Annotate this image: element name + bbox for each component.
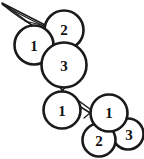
drawing-canvas: 1 2 3 1 1 2 3 <box>0 0 144 159</box>
stem-main-upper-line-icon <box>3 5 46 27</box>
cluster-diagram: 1 2 3 1 1 2 3 <box>0 0 144 159</box>
berry-circle-3-center <box>42 43 87 88</box>
berry-circle-1-middle <box>44 92 81 129</box>
berry-circle-1-lower <box>91 95 128 132</box>
